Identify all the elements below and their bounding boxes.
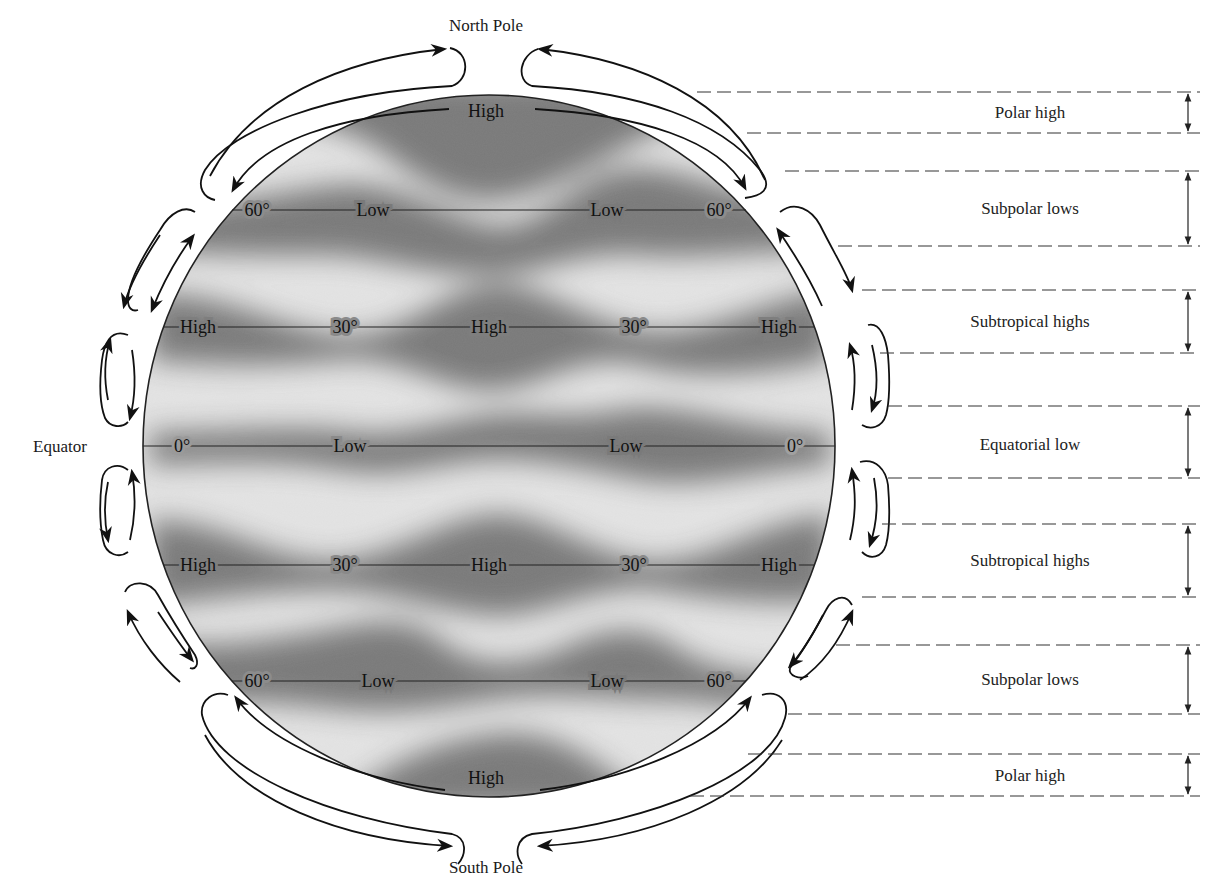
pressure-label-high: High [180,317,216,337]
pressure-label-low: Low [591,200,624,220]
pressure-label-low: Low [591,671,624,691]
pressure-label-low: Low [610,436,643,456]
south-hadley-cell-left-arrow-icon [100,466,135,555]
pressure-label-high: High [761,555,797,575]
equator-label: Equator [33,437,87,456]
south-ferrel-cell-right-arrow-icon [790,598,852,680]
pressure-label-low: Low [362,671,395,691]
north-pole-label: North Pole [449,16,523,35]
zone-label-polar-high-north: Polar high [995,103,1066,122]
lat-label: 60° [706,200,731,220]
pressure-label-low: Low [357,200,390,220]
south-polar-high-label: High [468,768,504,788]
lat-label: 60° [244,671,269,691]
north-polar-high-label: High [468,101,504,121]
zone-label-subpolar-lows-north: Subpolar lows [981,199,1079,218]
pressure-belts-diagram: High High 60° Low Low 60° High 30° High … [0,0,1220,893]
lat-label: 60° [706,671,731,691]
pressure-label-high: High [471,555,507,575]
lat-label: 30° [332,555,357,575]
lat-label: 30° [621,555,646,575]
zone-label-equatorial-low: Equatorial low [980,435,1081,454]
lat-label: 0° [787,436,803,456]
zone-label-subpolar-lows-south: Subpolar lows [981,670,1079,689]
pressure-label-high: High [180,555,216,575]
pressure-label-low: Low [334,436,367,456]
pressure-label-high: High [761,317,797,337]
lat-label: 30° [332,317,357,337]
lat-label: 30° [621,317,646,337]
lat-label: 0° [174,436,190,456]
north-hadley-cell-right-arrow-icon [850,325,889,428]
north-hadley-cell-left-arrow-icon [100,333,134,426]
zone-label-subtropical-highs-south: Subtropical highs [970,551,1089,570]
pressure-label-high: High [471,317,507,337]
south-hadley-cell-right-arrow-icon [850,461,889,557]
lat-label: 60° [244,200,269,220]
zone-label-subtropical-highs-north: Subtropical highs [970,312,1089,331]
zone-label-polar-high-south: Polar high [995,766,1066,785]
